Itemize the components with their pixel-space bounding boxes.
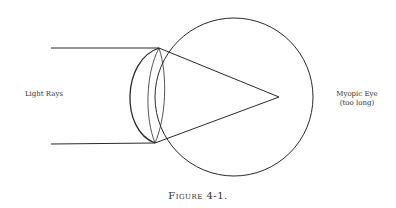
myopic-eye-title: Myopic Eye bbox=[326, 90, 388, 99]
top-refracted-ray bbox=[159, 48, 279, 97]
bottom-refracted-ray bbox=[155, 97, 279, 143]
light-rays-label: Light Rays bbox=[20, 90, 68, 99]
myopic-eye-subtitle: (too long) bbox=[326, 99, 388, 108]
eyeball-circle bbox=[155, 18, 313, 176]
figure-caption: Figure 4-1. bbox=[150, 190, 246, 201]
bottom-light-ray bbox=[51, 143, 155, 144]
myopic-eye-label: Myopic Eye (too long) bbox=[326, 90, 388, 108]
